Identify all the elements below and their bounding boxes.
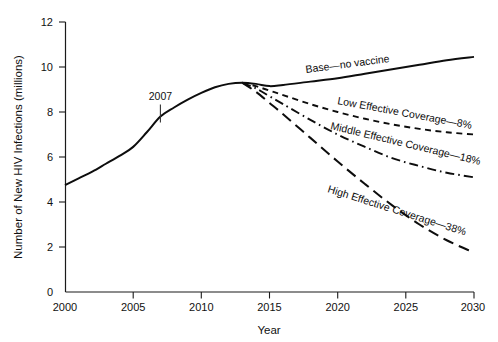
y-tick-label-0: 0 — [47, 286, 53, 298]
x-tick-label-2020: 2020 — [325, 301, 349, 313]
y-axis-title: Number of New HIV Infections (millions) — [12, 55, 24, 259]
x-tick-label-2010: 2010 — [189, 301, 213, 313]
chart-background — [0, 0, 498, 342]
y-tick-label-10: 10 — [41, 61, 53, 73]
x-axis-title: Year — [257, 324, 280, 336]
y-tick-label-12: 12 — [41, 16, 53, 28]
y-tick-label-4: 4 — [47, 196, 53, 208]
x-tick-label-2015: 2015 — [257, 301, 281, 313]
y-tick-label-8: 8 — [47, 106, 53, 118]
x-tick-label-2025: 2025 — [394, 301, 418, 313]
annotation-2007-label: 2007 — [149, 90, 173, 102]
y-tick-label-6: 6 — [47, 151, 53, 163]
x-tick-label-2000: 2000 — [53, 301, 77, 313]
y-tick-label-2: 2 — [47, 241, 53, 253]
x-tick-label-2030: 2030 — [461, 301, 485, 313]
chart-svg-canvas: 12 10 8 6 4 2 0 2000 2005 2010 2015 2020… — [0, 0, 498, 342]
hiv-infections-line-chart: 12 10 8 6 4 2 0 2000 2005 2010 2015 2020… — [0, 0, 498, 342]
x-tick-label-2005: 2005 — [121, 301, 145, 313]
